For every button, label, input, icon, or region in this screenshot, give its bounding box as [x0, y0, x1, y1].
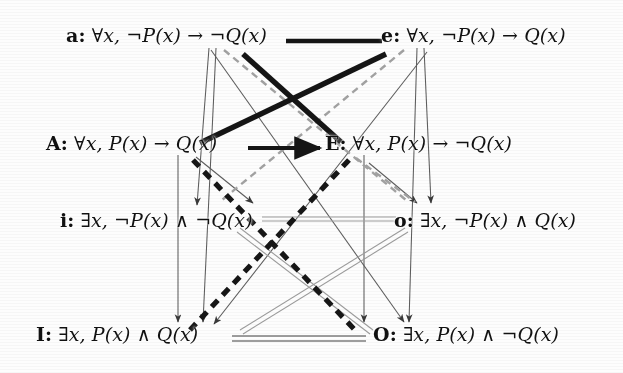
node-e-separator: :: [393, 24, 400, 46]
node-a-tag: a: [66, 24, 78, 46]
edge-e-i-dashed: [222, 50, 404, 200]
node-A-formula: ∀x, P(x) → Q(x): [74, 132, 217, 154]
node-O-formula: ∃x, P(x) ∧ ¬Q(x): [403, 323, 559, 345]
edge-A-O-dashed: [193, 160, 355, 330]
edge-i-O-upper: [240, 228, 373, 330]
edge-E-I-dashed: [190, 160, 349, 330]
edge-e-O: [409, 48, 417, 322]
node-E-separator: :: [340, 132, 347, 154]
node-o-formula: ∃x, ¬P(x) ∧ Q(x): [420, 209, 576, 231]
edge-a-O: [211, 50, 404, 322]
node-a-formula: ∀x, ¬P(x) → ¬Q(x): [92, 24, 267, 46]
node-I-separator: :: [45, 323, 52, 345]
node-E[interactable]: E: ∀x, P(x) → ¬Q(x): [325, 134, 512, 153]
node-i-separator: :: [67, 209, 74, 231]
edge-a-o-dashed: [224, 50, 406, 200]
edge-e-A: [200, 54, 386, 143]
node-o-separator: :: [407, 209, 414, 231]
edge-layer: [0, 0, 623, 373]
node-A-tag: A: [46, 132, 61, 154]
node-A-separator: :: [61, 132, 68, 154]
node-I[interactable]: I: ∃x, P(x) ∧ Q(x): [36, 325, 198, 344]
node-A[interactable]: A: ∀x, P(x) → Q(x): [46, 134, 217, 153]
node-e[interactable]: e: ∀x, ¬P(x) → Q(x): [381, 26, 566, 45]
node-I-formula: ∃x, P(x) ∧ Q(x): [58, 323, 198, 345]
node-O[interactable]: O: ∃x, P(x) ∧ ¬Q(x): [373, 325, 559, 344]
edge-a-I: [203, 48, 216, 322]
edge-a-E: [243, 54, 341, 142]
edge-i-O-lower: [237, 232, 370, 334]
edge-o-I-upper: [240, 228, 405, 330]
node-a[interactable]: a: ∀x, ¬P(x) → ¬Q(x): [66, 26, 267, 45]
node-o-tag: o: [394, 209, 407, 231]
node-E-formula: ∀x, P(x) → ¬Q(x): [353, 132, 512, 154]
node-i[interactable]: i: ∃x, ¬P(x) ∧ ¬Q(x): [60, 211, 253, 230]
node-O-tag: O: [373, 323, 390, 345]
node-o[interactable]: o: ∃x, ¬P(x) ∧ Q(x): [394, 211, 576, 230]
edge-e-o: [424, 48, 431, 203]
edge-e-i: [214, 52, 427, 324]
edge-E-dash-down: [356, 158, 415, 202]
edge-E-o: [369, 163, 417, 203]
node-e-formula: ∀x, ¬P(x) → Q(x): [406, 24, 565, 46]
node-I-tag: I: [36, 323, 45, 345]
node-E-tag: E: [325, 132, 340, 154]
scan-texture-overlay: [0, 0, 623, 373]
node-O-separator: :: [390, 323, 397, 345]
edge-A-o: [196, 157, 253, 203]
node-e-tag: e: [381, 24, 393, 46]
edge-o-I-lower: [243, 232, 408, 334]
node-i-formula: ∃x, ¬P(x) ∧ ¬Q(x): [81, 209, 253, 231]
node-a-separator: :: [78, 24, 85, 46]
diagram-canvas: a: ∀x, ¬P(x) → ¬Q(x) e: ∀x, ¬P(x) → Q(x)…: [0, 0, 623, 373]
edge-a-i: [197, 48, 209, 205]
